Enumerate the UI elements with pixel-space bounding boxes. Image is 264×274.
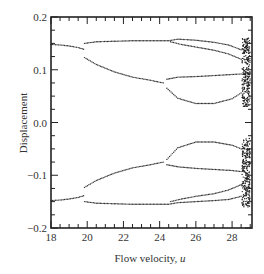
y-tick-label: 0.1 [33, 64, 47, 76]
bifurcation-chart: 182022242628 0.20.10.0−0.1−0.2 Flow velo… [0, 0, 264, 274]
x-axis-tick-labels: 182022242628 [46, 231, 239, 243]
x-tick-label: 26 [190, 231, 202, 243]
x-tick-label: 22 [118, 231, 129, 243]
x-tick-label: 18 [46, 231, 58, 243]
y-tick-label: 0.2 [33, 11, 47, 23]
x-tick-label: 20 [82, 231, 94, 243]
y-tick-label: −0.1 [27, 169, 47, 181]
data-points [50, 39, 242, 206]
x-axis-label: Flow velocity, u [114, 252, 186, 264]
y-tick-label: −0.2 [27, 222, 47, 234]
y-tick-label: 0.0 [33, 117, 47, 129]
x-tick-label: 28 [227, 231, 239, 243]
y-axis-tick-labels: 0.20.10.0−0.1−0.2 [27, 11, 47, 234]
y-axis-label: Displacement [17, 93, 29, 153]
x-tick-label: 24 [154, 231, 166, 243]
